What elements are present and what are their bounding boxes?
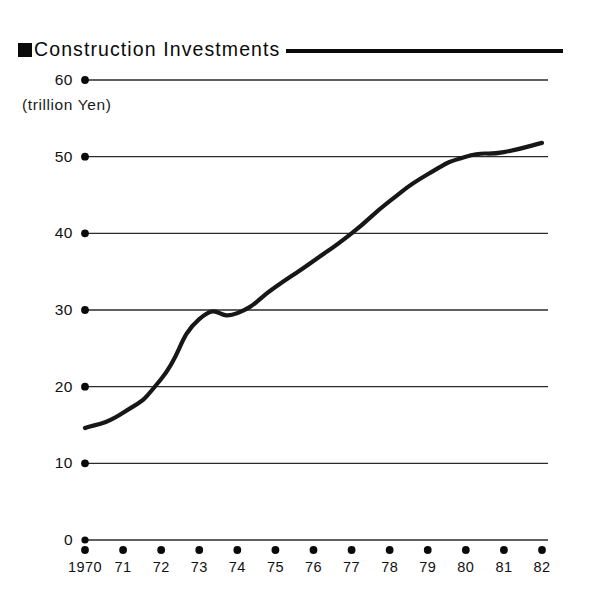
- y-axis-tick-label: 20: [27, 379, 73, 395]
- y-axis-tick-dot: [81, 153, 89, 161]
- x-axis-tick-dot: [310, 546, 318, 554]
- construction-investments-chart: Construction Investments (trillion Yen) …: [0, 0, 593, 593]
- y-axis-tick-label: 0: [27, 532, 73, 548]
- x-axis-dots-group: [81, 546, 546, 554]
- x-axis-tick-dot: [538, 546, 546, 554]
- x-axis-tick-dot: [272, 546, 280, 554]
- y-axis-tick-dot: [81, 383, 89, 391]
- y-axis-tick-dot: [81, 536, 88, 543]
- x-axis-tick-dot: [500, 546, 508, 554]
- x-axis-tick-dot: [119, 546, 127, 554]
- y-axis-tick-label: 30: [27, 302, 73, 318]
- x-axis-tick-label: 82: [512, 560, 572, 575]
- y-axis-tick-dot: [81, 229, 89, 237]
- x-axis-tick-dot: [81, 546, 89, 554]
- x-axis-tick-dot: [233, 546, 241, 554]
- y-axis-tick-label: 60: [27, 72, 73, 88]
- series-line-construction-investments: [85, 143, 542, 428]
- x-axis-tick-dot: [424, 546, 432, 554]
- y-axis-tick-dot: [81, 306, 89, 314]
- x-axis-tick-dot: [195, 546, 203, 554]
- x-axis-tick-dot: [157, 546, 165, 554]
- plot-area: [0, 0, 593, 593]
- y-axis-tick-label: 10: [27, 455, 73, 471]
- y-axis-tick-label: 50: [27, 149, 73, 165]
- x-axis-tick-dot: [386, 546, 394, 554]
- gridlines-group: [85, 80, 548, 540]
- y-axis-tick-label: 40: [27, 225, 73, 241]
- y-axis-dots-group: [81, 76, 89, 544]
- x-axis-tick-dot: [462, 546, 470, 554]
- x-axis-tick-dot: [348, 546, 356, 554]
- y-axis-tick-dot: [81, 459, 89, 467]
- y-axis-tick-dot: [81, 76, 89, 84]
